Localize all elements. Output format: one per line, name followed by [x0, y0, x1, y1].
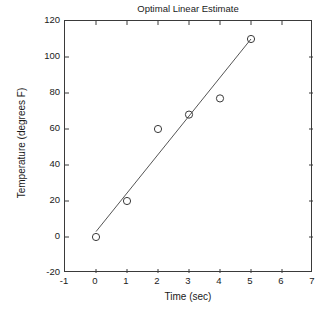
x-tick-label: 5: [238, 276, 262, 286]
x-tick-label: 6: [269, 276, 293, 286]
x-tick-label: 3: [176, 276, 200, 286]
x-tick-label: 1: [114, 276, 138, 286]
x-tick-label: 7: [300, 276, 324, 286]
x-tick-label: 0: [83, 276, 107, 286]
x-tick-label: -1: [52, 276, 76, 286]
figure-canvas: Optimal Linear Estimate -200204060801001…: [0, 0, 330, 315]
y-axis-title: Temperature (degrees F): [15, 17, 29, 269]
x-axis-title: Time (sec): [64, 291, 312, 303]
x-tick-label: 4: [207, 276, 231, 286]
x-axis-tick-labels: -101234567: [0, 0, 330, 315]
y-axis-title-wrapper: Temperature (degrees F): [15, 17, 29, 269]
x-tick-label: 2: [145, 276, 169, 286]
